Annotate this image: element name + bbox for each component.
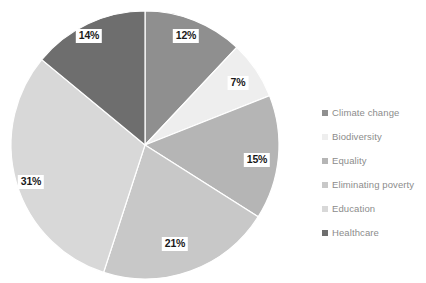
legend-item[interactable]: Education	[322, 197, 426, 221]
chart-legend: Climate changeBiodiversityEqualityElimin…	[322, 101, 426, 245]
legend-swatch-icon	[322, 182, 328, 188]
slice-value-label: 15%	[244, 153, 270, 167]
pie-chart: 12%7%15%21%31%14% Climate changeBiodiver…	[0, 0, 426, 283]
slice-value-label: 12%	[173, 29, 199, 43]
pie-plot-area: 12%7%15%21%31%14%	[0, 0, 292, 283]
legend-swatch-icon	[322, 206, 328, 212]
legend-swatch-icon	[322, 230, 328, 236]
legend-item-label: Eliminating poverty	[332, 179, 414, 191]
legend-item-label: Education	[332, 203, 375, 215]
legend-item-label: Climate change	[332, 107, 399, 119]
pie-slices	[11, 11, 279, 279]
legend-swatch-icon	[322, 110, 328, 116]
slice-value-label: 14%	[76, 29, 102, 43]
legend-item-label: Healthcare	[332, 227, 379, 239]
legend-item[interactable]: Healthcare	[322, 221, 426, 245]
legend-swatch-icon	[322, 158, 328, 164]
legend-item-label: Equality	[332, 155, 367, 167]
slice-value-label: 31%	[18, 175, 44, 189]
slice-value-label: 7%	[228, 76, 249, 90]
legend-item[interactable]: Equality	[322, 149, 426, 173]
pie-svg	[0, 0, 292, 283]
slice-value-label: 21%	[162, 237, 188, 251]
legend-item[interactable]: Eliminating poverty	[322, 173, 426, 197]
legend-item-label: Biodiversity	[332, 131, 382, 143]
legend-item[interactable]: Biodiversity	[322, 125, 426, 149]
legend-item[interactable]: Climate change	[322, 101, 426, 125]
legend-swatch-icon	[322, 134, 328, 140]
